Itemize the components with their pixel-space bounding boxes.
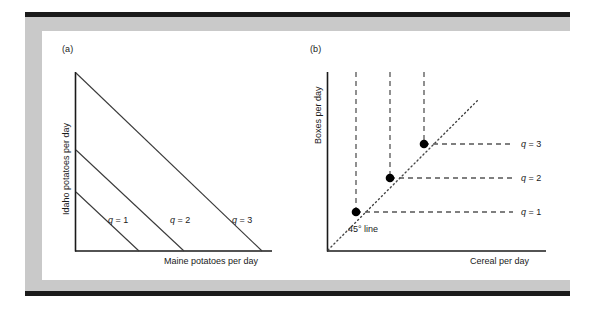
- panel-b-isoquant-label-q2: q = 2: [521, 173, 541, 183]
- panel-b-q-symbol-q1: q: [521, 207, 526, 217]
- panel-b-isoquant-label-q3: q = 3: [521, 139, 541, 149]
- panel-b-q-value-q1: 1: [536, 207, 541, 217]
- panel-a-q-value-q2: 2: [185, 215, 190, 225]
- panel-b-isoquant-q1: [356, 72, 513, 212]
- panel-b-corner-point-q2: [386, 174, 395, 183]
- panel-b-corner-point-q3: [420, 140, 429, 149]
- panel-b-isoquant-q3: [424, 72, 513, 144]
- panel-a-q-value-q1: 1: [123, 215, 128, 225]
- panel-b-q-symbol-q2: q: [521, 173, 526, 183]
- panel-a-q-symbol-q1: q: [108, 215, 113, 225]
- panel-b-tag: (b): [310, 44, 321, 54]
- panel-b-q-symbol-q3: q: [521, 139, 526, 149]
- panel-b-x-axis-label: Cereal per day: [470, 256, 529, 266]
- panel-b-q-value-q2: 2: [536, 173, 541, 183]
- panel-a-isoquant-label-q2: q = 2: [170, 215, 190, 225]
- panel-a-y-axis-label: Idaho potatoes per day: [61, 123, 71, 215]
- panel-b-isoquant-q2: [390, 72, 513, 178]
- panel-a-x-axis-label: Maine potatoes per day: [164, 256, 258, 266]
- panel-a-tag: (a): [62, 44, 73, 54]
- panel-b-isoquant-label-q1: q = 1: [521, 207, 541, 217]
- panel-b-y-axis-label: Boxes per day: [313, 86, 323, 144]
- panel-a-isoquant-label-q1: q = 1: [108, 215, 128, 225]
- panel-a-q-symbol-q3: q: [232, 215, 237, 225]
- panel-a-q-symbol-q2: q: [170, 215, 175, 225]
- figure-root: (a) Idaho potatoes per day Maine potatoe…: [0, 0, 595, 309]
- panel-a-isoquant-label-q3: q = 3: [232, 215, 252, 225]
- panel-b-45-degree-line-label: 45° line: [348, 224, 378, 234]
- panel-b-corner-point-q1: [352, 208, 361, 217]
- panel-b-q-value-q3: 3: [536, 139, 541, 149]
- panel-a-q-value-q3: 3: [247, 215, 252, 225]
- panel-a-isoquant-q2: [76, 150, 184, 251]
